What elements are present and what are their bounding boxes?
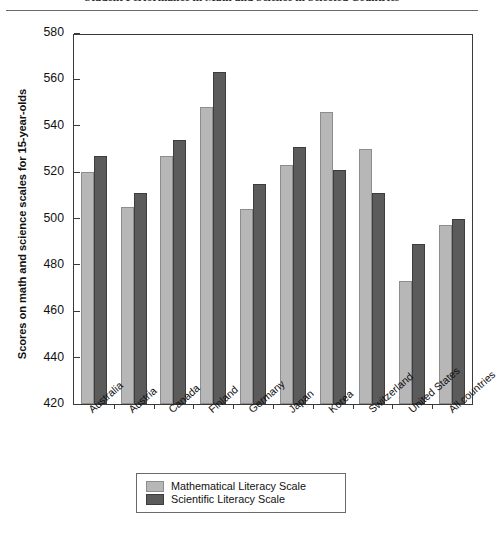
bar-group-switzerland: [353, 35, 393, 404]
y-axis-label: Scores on math and science scales for 15…: [16, 74, 28, 374]
y-tick-label: 520: [43, 164, 64, 178]
bar-science: [213, 72, 226, 404]
bar-group-australia: [74, 35, 114, 404]
y-tick-label: 560: [43, 71, 64, 85]
bar-math: [320, 112, 333, 404]
legend-label-math: Mathematical Literacy Scale: [171, 480, 306, 492]
y-tick-mark: [74, 33, 80, 34]
bar-science: [94, 156, 107, 404]
bar-group-germany: [233, 35, 273, 404]
bar-group-finland: [193, 35, 233, 404]
bar-science: [173, 140, 186, 404]
y-tick-label: 460: [43, 303, 64, 317]
bar-group-japan: [273, 35, 313, 404]
chart-title-strip: Student Performance in Math and Science …: [0, 0, 484, 9]
y-tick-label: 480: [43, 257, 64, 271]
bar-science: [293, 147, 306, 404]
legend-swatch-math-icon: [146, 481, 164, 492]
y-tick-label: 420: [43, 396, 64, 410]
bar-math: [240, 209, 253, 404]
bar-group-korea: [313, 35, 353, 404]
chart-legend: Mathematical Literacy Scale Scientific L…: [136, 473, 346, 513]
bar-science: [333, 170, 346, 404]
bar-science: [412, 244, 425, 404]
y-tick-label: 580: [43, 25, 64, 39]
bar-math: [359, 149, 372, 404]
bar-groups: [74, 35, 472, 404]
legend-swatch-science-icon: [146, 494, 164, 505]
bar-math: [121, 207, 134, 404]
x-axis-labels: AustraliaAustriaCanadaFinlandGermanyJapa…: [73, 406, 473, 468]
page-title: Student Performance in Math and Science …: [85, 0, 400, 3]
bar-math: [160, 156, 173, 404]
bar-math: [81, 172, 94, 404]
legend-item-science: Scientific Literacy Scale: [146, 493, 336, 505]
bar-math: [280, 165, 293, 404]
bar-math: [200, 107, 213, 404]
title-divider: [6, 10, 478, 11]
bar-science: [134, 193, 147, 404]
bar-group-austria: [114, 35, 154, 404]
legend-item-math: Mathematical Literacy Scale: [146, 480, 336, 492]
bar-science: [253, 184, 266, 404]
y-tick-label: 500: [43, 211, 64, 225]
y-tick-label: 440: [43, 350, 64, 364]
y-tick-label: 540: [43, 118, 64, 132]
plot-area: 420440460480500520540560580: [73, 34, 473, 405]
legend-label-science: Scientific Literacy Scale: [171, 493, 285, 505]
bar-group-canada: [154, 35, 194, 404]
bar-science: [372, 193, 385, 404]
bar-group-all-countries: [432, 35, 472, 404]
bar-group-united-states: [392, 35, 432, 404]
